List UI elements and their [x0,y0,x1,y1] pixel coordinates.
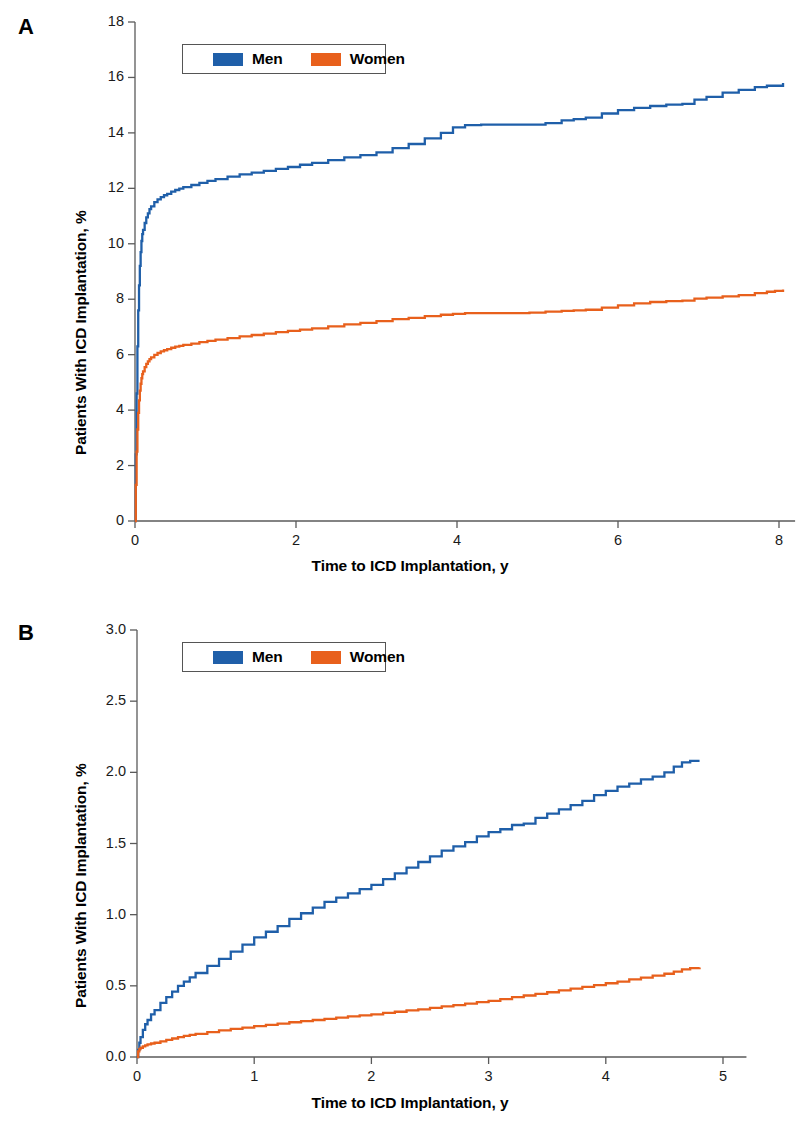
x-tick-label: 4 [586,1068,626,1084]
legend-label-women: Women [350,51,405,67]
y-tick-label: 8 [76,290,124,306]
panel-a-legend: Men Women [182,44,386,74]
y-tick-label: 2.0 [78,763,126,779]
legend-label-men: Men [252,51,283,67]
y-tick-label: 1.0 [78,906,126,922]
x-tick-label: 0 [115,532,155,548]
panel-a: A Patients With ICD Implantation, % Time… [0,0,800,600]
x-tick-label: 1 [234,1068,274,1084]
legend-entry-men: Men [213,649,283,665]
y-tick-label: 18 [76,13,124,29]
y-tick-label: 0.0 [78,1048,126,1064]
y-tick-label: 14 [76,124,124,140]
y-tick-label: 1.5 [78,835,126,851]
x-tick-label: 8 [759,532,799,548]
legend-entry-women: Women [311,649,405,665]
y-tick-label: 6 [76,346,124,362]
x-tick-label: 5 [703,1068,743,1084]
panel-b-legend: Men Women [182,642,386,672]
x-tick-label: 0 [117,1068,157,1084]
x-tick-label: 6 [598,532,638,548]
panel-b-x-axis-label: Time to ICD Implantation, y [230,1094,590,1112]
y-tick-label: 3.0 [78,621,126,637]
panel-b: B Patients With ICD Implantation, % Time… [0,608,800,1131]
y-tick-label: 12 [76,179,124,195]
legend-swatch-women [311,651,341,664]
x-tick-label: 4 [437,532,477,548]
legend-label-men: Men [252,649,283,665]
y-tick-label: 2 [76,457,124,473]
legend-label-women: Women [350,649,405,665]
panel-b-y-axis-label: Patients With ICD Implantation, % [72,763,90,1008]
legend-swatch-men [213,53,243,66]
y-tick-label: 4 [76,401,124,417]
x-tick-label: 2 [351,1068,391,1084]
y-tick-label: 0.5 [78,977,126,993]
legend-entry-women: Women [311,51,405,67]
figure-root: A Patients With ICD Implantation, % Time… [0,0,800,1131]
y-tick-label: 10 [76,235,124,251]
panel-a-x-axis-label: Time to ICD Implantation, y [230,557,590,575]
x-tick-label: 2 [276,532,316,548]
y-tick-label: 2.5 [78,692,126,708]
legend-swatch-women [311,53,341,66]
legend-swatch-men [213,651,243,664]
legend-entry-men: Men [213,51,283,67]
x-tick-label: 3 [469,1068,509,1084]
y-tick-label: 0 [76,512,124,528]
y-tick-label: 16 [76,68,124,84]
